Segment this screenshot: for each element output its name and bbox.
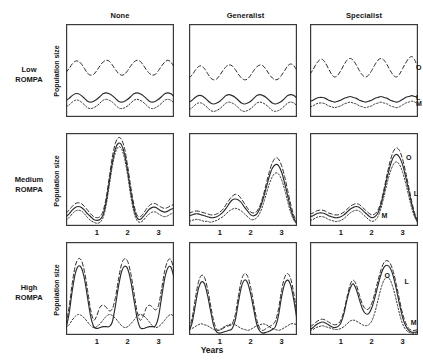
x-tick-label: 2	[123, 228, 133, 237]
x-tick-label: 3	[398, 228, 408, 237]
x-tick-label: 3	[277, 337, 287, 346]
row-label-medium-rompa-line2: ROMPA	[15, 185, 42, 194]
curve-label-o: O	[416, 64, 421, 71]
row-label-high-rompa: High ROMPA	[6, 283, 52, 303]
y-axis-label-row2: Population size	[53, 145, 63, 217]
column-header-none: None	[66, 11, 174, 20]
panel-frame	[67, 25, 174, 117]
curve-label-o: O	[385, 272, 390, 279]
row-label-medium-rompa: Medium ROMPA	[6, 175, 52, 195]
x-axis-label: Years	[180, 345, 244, 355]
panel-frame	[311, 243, 418, 335]
x-tick-label: 3	[398, 337, 408, 346]
x-tick-label: 2	[246, 228, 256, 237]
curve-label-o: O	[406, 154, 411, 161]
panel-low-rompa-none	[66, 24, 174, 117]
x-tick-label: 3	[277, 228, 287, 237]
y-axis-label-row3: Population size	[53, 254, 63, 326]
curve-label-l: L	[405, 278, 409, 285]
curve-label-m: M	[416, 100, 422, 107]
panel-medium-rompa-none	[66, 133, 174, 226]
panel-medium-rompa-specialist	[310, 133, 418, 226]
panel-high-rompa-specialist	[310, 242, 418, 335]
x-tick-label: 1	[336, 228, 346, 237]
x-tick-label: 2	[367, 228, 377, 237]
x-tick-label: 3	[154, 337, 164, 346]
row-label-low-rompa-line2: ROMPA	[15, 75, 42, 84]
panel-low-rompa-generalist	[189, 24, 297, 117]
panel-high-rompa-generalist	[189, 242, 297, 335]
x-tick-label: 2	[246, 337, 256, 346]
row-label-low-rompa-line1: Low	[22, 65, 37, 74]
x-tick-label: 1	[336, 337, 346, 346]
row-label-medium-rompa-line1: Medium	[15, 175, 43, 184]
x-tick-label: 2	[123, 337, 133, 346]
row-label-high-rompa-line2: ROMPA	[15, 293, 42, 302]
x-tick-label: 1	[92, 337, 102, 346]
panel-low-rompa-specialist	[310, 24, 418, 117]
column-header-generalist: Generalist	[189, 11, 302, 20]
panel-frame	[190, 134, 297, 226]
row-label-low-rompa: Low ROMPA	[6, 65, 52, 85]
row-label-high-rompa-line1: High	[21, 283, 38, 292]
x-tick-label: 3	[154, 228, 164, 237]
figure-container: None Generalist Specialist Low ROMPA Med…	[0, 0, 423, 364]
y-axis-label-row1: Population size	[53, 35, 63, 107]
column-header-specialist: Specialist	[310, 11, 418, 20]
curve-label-m: M	[381, 212, 387, 219]
panel-frame	[311, 25, 418, 117]
x-tick-label: 1	[215, 337, 225, 346]
curve-label-m: M	[411, 319, 417, 326]
x-tick-label: 2	[367, 337, 377, 346]
panel-medium-rompa-generalist	[189, 133, 297, 226]
panel-high-rompa-none	[66, 242, 174, 335]
x-tick-label: 1	[215, 228, 225, 237]
curve-label-l: L	[414, 190, 418, 197]
x-tick-label: 1	[92, 228, 102, 237]
